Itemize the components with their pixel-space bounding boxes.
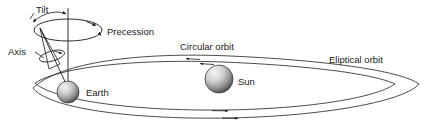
earth-orbit-diagram: Tilt Axis Precession Circular orbit Elip… [0,0,435,128]
label-sun: Sun [238,76,255,87]
diagram-canvas: Tilt Axis Precession Circular orbit Elip… [0,0,435,128]
label-tilt: Tilt [36,4,49,15]
label-precession: Precession [107,26,154,37]
earth-rotation-axis [40,28,68,88]
earth-body [57,81,79,103]
label-elliptical-orbit: Eliptical orbit [329,54,383,65]
tilt-leader-line [30,13,34,19]
label-earth: Earth [86,87,109,98]
sun-body [205,65,233,93]
label-circular-orbit: Circular orbit [180,41,234,52]
label-axis: Axis [8,46,26,57]
